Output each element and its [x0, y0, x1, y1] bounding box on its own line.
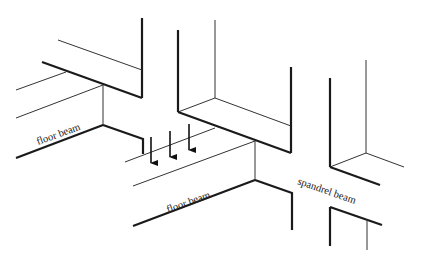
top-left-column	[42, 18, 142, 98]
beam-column-diagram: floor beam floor beam spandrel beam	[0, 0, 422, 258]
left-floor-beam	[16, 72, 143, 158]
center-column	[178, 20, 291, 153]
load-arrows	[151, 124, 189, 163]
spandrel-beam-label: spandrel beam	[296, 175, 357, 205]
center-floor-beam-label: floor beam	[165, 189, 212, 215]
right-column-upper	[330, 60, 404, 185]
right-column-lower	[330, 207, 382, 250]
